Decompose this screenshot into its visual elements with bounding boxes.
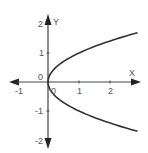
y-tick-label: -2 (35, 136, 43, 146)
x-axis-label: X (129, 68, 135, 78)
y-axis-down-arrow-icon (45, 138, 52, 149)
origin-label: 0 (38, 72, 43, 82)
y-axis-label: Y (53, 17, 59, 27)
parabola-chart: -1 0 1 2 0 2 1 -1 -2 X Y (0, 0, 148, 153)
y-tick-label: 1 (39, 48, 44, 58)
x-axis-right-arrow-icon (131, 79, 141, 86)
x-tick-label: 1 (77, 86, 82, 96)
x-axis (9, 79, 141, 86)
x-tick-label: 2 (108, 86, 113, 96)
x-tick-label: -1 (15, 86, 23, 96)
y-axis-up-arrow-icon (45, 14, 52, 25)
x-tick-label: 0 (51, 86, 56, 96)
y-tick-label: 2 (38, 19, 43, 29)
y-tick-label: -1 (35, 106, 43, 116)
